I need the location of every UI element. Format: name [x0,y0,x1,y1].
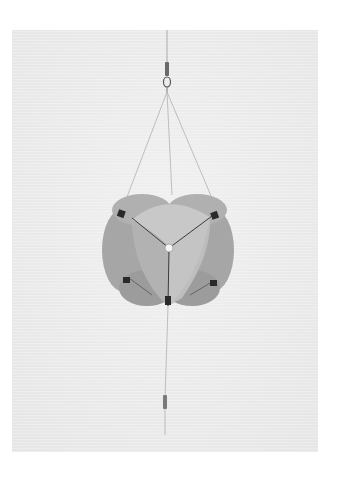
radar-reflector-illustration [12,30,318,452]
photograph [12,30,318,452]
suspension-line-top [122,30,217,210]
suspension-line-bottom [163,306,168,435]
